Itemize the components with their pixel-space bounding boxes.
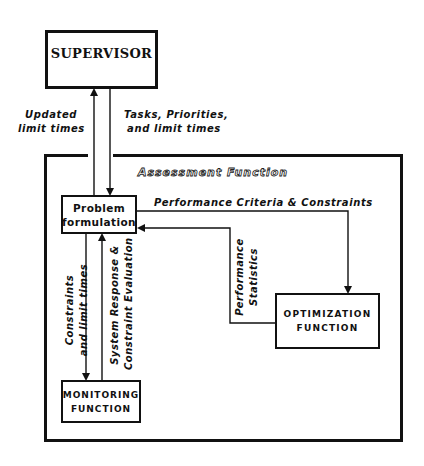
optimization-label-line2: FUNCTION	[284, 321, 372, 335]
label-tasks-priorities: Tasks, Priorities, and limit times	[124, 108, 224, 136]
monitoring-label-line2: FUNCTION	[63, 402, 139, 416]
label-performance-statistics: Performance Statistics	[233, 227, 263, 327]
supervisor-label: SUPERVISOR	[51, 46, 152, 61]
label-constraints-limit-times: Constraints and limit times	[63, 255, 93, 365]
monitoring-label-line1: MONITORING	[63, 388, 139, 402]
supervisor-node: SUPERVISOR	[45, 30, 158, 89]
problem-formulation-node: Problem formulation	[61, 195, 137, 234]
problem-label-line1: Problem	[62, 201, 136, 215]
optimization-function-node: OPTIMIZATION FUNCTION	[275, 293, 380, 349]
monitoring-function-node: MONITORING FUNCTION	[61, 380, 141, 423]
label-performance-criteria: Performance Criteria & Constraints	[154, 196, 373, 210]
label-updated-limit-times: Updated limit times	[18, 108, 84, 136]
assessment-function-title: Assessment Function	[138, 166, 288, 179]
label-system-response: System Response & Constraint Evaluation	[108, 240, 138, 370]
optimization-label-line1: OPTIMIZATION	[284, 307, 372, 321]
problem-label-line2: formulation	[62, 215, 136, 229]
